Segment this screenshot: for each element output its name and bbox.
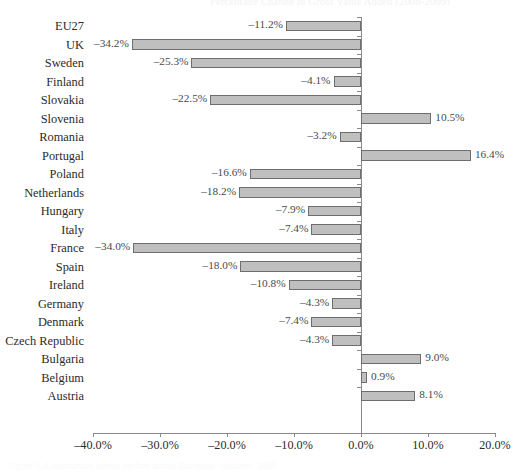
bar bbox=[361, 150, 471, 161]
category-label: France bbox=[0, 239, 88, 258]
bar bbox=[340, 132, 361, 143]
category-label: Belgium bbox=[0, 369, 88, 388]
bar bbox=[240, 261, 361, 272]
category-label: Netherlands bbox=[0, 184, 88, 203]
bar-value-label: –11.2% bbox=[249, 18, 283, 31]
value-tick-mark bbox=[428, 433, 429, 437]
value-tick-mark bbox=[93, 433, 94, 437]
plot-area: –11.2%–34.2%–25.3%–4.1%–22.5%10.5%–3.2%1… bbox=[93, 17, 495, 434]
category-tick-mark bbox=[357, 184, 362, 185]
value-tick-mark bbox=[495, 433, 496, 437]
bar-row: –3.2% bbox=[93, 128, 495, 147]
bar bbox=[239, 187, 361, 198]
bar-row: –4.1% bbox=[93, 73, 495, 92]
category-label: Spain bbox=[0, 258, 88, 277]
bar-row: 9.0% bbox=[93, 350, 495, 369]
bar-value-label: –22.5% bbox=[172, 92, 207, 105]
value-tick-mark bbox=[294, 433, 295, 437]
category-tick-mark bbox=[357, 350, 362, 351]
bar-value-label: –7.9% bbox=[276, 203, 305, 216]
bar bbox=[308, 206, 361, 217]
bar bbox=[334, 76, 361, 87]
bar bbox=[210, 95, 361, 106]
category-label: Slovakia bbox=[0, 91, 88, 110]
category-label: Austria bbox=[0, 387, 88, 406]
category-label: Sweden bbox=[0, 54, 88, 73]
bar-row: 0.9% bbox=[93, 369, 495, 388]
value-axis-labels: –40.0%–30.0%–20.0%–10.0%0.0%10.0%20.0% bbox=[0, 438, 532, 456]
category-tick-mark bbox=[357, 239, 362, 240]
bar-row: –7.4% bbox=[93, 313, 495, 332]
bar-row: –22.5% bbox=[93, 91, 495, 110]
bar-value-label: –4.1% bbox=[301, 74, 330, 87]
bar-rows: –11.2%–34.2%–25.3%–4.1%–22.5%10.5%–3.2%1… bbox=[93, 17, 495, 433]
category-tick-mark bbox=[357, 258, 362, 259]
category-label: Slovenia bbox=[0, 110, 88, 129]
bar-row: –4.3% bbox=[93, 295, 495, 314]
category-tick-mark bbox=[357, 313, 362, 314]
bar-value-label: –34.2% bbox=[94, 37, 129, 50]
category-tick-mark bbox=[357, 332, 362, 333]
bar-value-label: –7.4% bbox=[279, 314, 308, 327]
category-label: Hungary bbox=[0, 202, 88, 221]
bar bbox=[191, 58, 361, 69]
category-label: UK bbox=[0, 36, 88, 55]
category-label: Poland bbox=[0, 165, 88, 184]
bar bbox=[332, 335, 361, 346]
value-tick-mark bbox=[160, 433, 161, 437]
category-tick-mark bbox=[357, 387, 362, 388]
bar-row: –11.2% bbox=[93, 17, 495, 36]
bar bbox=[311, 317, 361, 328]
category-label: Denmark bbox=[0, 313, 88, 332]
category-tick-mark bbox=[357, 147, 362, 148]
bar bbox=[361, 391, 415, 402]
category-tick-mark bbox=[357, 36, 362, 37]
bar-row: –25.3% bbox=[93, 54, 495, 73]
category-tick-mark bbox=[357, 91, 362, 92]
bar-row: 8.1% bbox=[93, 387, 495, 406]
bar-value-label: –4.3% bbox=[300, 296, 329, 309]
bar-row: 16.4% bbox=[93, 147, 495, 166]
bar-value-label: –18.0% bbox=[203, 259, 238, 272]
bar bbox=[311, 224, 361, 235]
bar bbox=[361, 113, 431, 124]
bar-value-label: –18.2% bbox=[201, 185, 236, 198]
bar bbox=[250, 169, 361, 180]
bar-value-label: 8.1% bbox=[419, 388, 443, 401]
category-tick-mark bbox=[357, 202, 362, 203]
bar-value-label: –34.0% bbox=[95, 240, 130, 253]
category-tick-mark bbox=[357, 54, 362, 55]
category-tick-mark bbox=[357, 128, 362, 129]
bar-value-label: –25.3% bbox=[154, 55, 189, 68]
category-label: Germany bbox=[0, 295, 88, 314]
category-label: Finland bbox=[0, 73, 88, 92]
bar-value-label: 16.4% bbox=[475, 148, 504, 161]
bar-row: –16.6% bbox=[93, 165, 495, 184]
bar bbox=[289, 280, 361, 291]
category-label: Bulgaria bbox=[0, 350, 88, 369]
bar-value-label: –10.8% bbox=[251, 277, 286, 290]
category-tick-mark bbox=[357, 110, 362, 111]
bar-value-label: 0.9% bbox=[371, 370, 395, 383]
bar bbox=[133, 243, 361, 254]
category-tick-mark bbox=[357, 221, 362, 222]
bar-row: –4.3% bbox=[93, 332, 495, 351]
category-tick-mark bbox=[357, 73, 362, 74]
category-tick-mark bbox=[357, 276, 362, 277]
category-label: Romania bbox=[0, 128, 88, 147]
category-axis-labels: EU27UKSwedenFinlandSlovakiaSloveniaRoman… bbox=[0, 17, 88, 433]
bar-row: –34.2% bbox=[93, 36, 495, 55]
bar-value-label: 9.0% bbox=[425, 351, 449, 364]
value-tick-mark bbox=[361, 433, 362, 437]
bar-row: –34.0% bbox=[93, 239, 495, 258]
bar-value-label: –4.3% bbox=[300, 333, 329, 346]
category-label: Italy bbox=[0, 221, 88, 240]
category-tick-mark bbox=[357, 165, 362, 166]
bar-row: –7.4% bbox=[93, 221, 495, 240]
bar bbox=[332, 298, 361, 309]
category-tick-mark bbox=[357, 295, 362, 296]
bar-value-label: –7.4% bbox=[279, 222, 308, 235]
clipped-page-caption: Figure 3. Construction output decline ac… bbox=[8, 461, 408, 472]
bar-row: –10.8% bbox=[93, 276, 495, 295]
category-label: EU27 bbox=[0, 17, 88, 36]
